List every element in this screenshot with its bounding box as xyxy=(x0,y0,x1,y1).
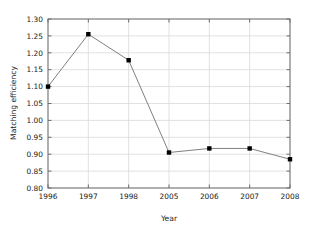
y-tick-label: 1.15 xyxy=(27,65,44,74)
y-tick-label: 1.05 xyxy=(27,99,44,108)
data-point-marker xyxy=(126,58,130,62)
y-tick-label: 1.20 xyxy=(27,49,44,58)
x-tick-label: 1996 xyxy=(39,192,58,201)
y-tick-label: 1.25 xyxy=(27,32,44,41)
y-tick-label: 0.90 xyxy=(27,150,44,159)
chart-figure: 0.800.850.900.951.001.051.101.151.201.25… xyxy=(0,0,312,228)
data-point-marker xyxy=(247,146,251,150)
x-axis-title: Year xyxy=(160,214,178,223)
data-point-marker xyxy=(288,157,292,161)
data-point-marker xyxy=(46,84,50,88)
y-tick-label: 0.85 xyxy=(27,167,44,176)
data-point-marker xyxy=(86,32,90,36)
data-point-marker xyxy=(167,150,171,154)
x-tick-label: 2007 xyxy=(240,192,259,201)
y-tick-label: 1.00 xyxy=(27,116,44,125)
y-tick-label: 1.30 xyxy=(27,15,44,24)
data-point-marker xyxy=(207,146,211,150)
x-tick-label: 2006 xyxy=(200,192,219,201)
y-tick-label: 1.10 xyxy=(27,82,44,91)
x-tick-label: 2008 xyxy=(281,192,300,201)
y-tick-label: 0.95 xyxy=(27,133,44,142)
x-tick-label: 1997 xyxy=(79,192,98,201)
x-tick-label: 1998 xyxy=(119,192,138,201)
x-tick-label: 2005 xyxy=(160,192,179,201)
y-axis-title: Matching efficiency xyxy=(9,66,18,140)
line-chart-canvas: 0.800.850.900.951.001.051.101.151.201.25… xyxy=(0,0,312,228)
